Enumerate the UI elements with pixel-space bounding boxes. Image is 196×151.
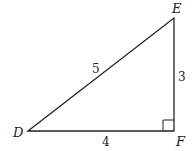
vertex-label-e: E <box>171 1 182 16</box>
side-label-ef: 3 <box>178 70 186 84</box>
vertex-label-f: F <box>175 134 186 149</box>
vertex-label-d: D <box>12 125 24 140</box>
right-angle-marker <box>163 120 174 131</box>
side-label-df: 4 <box>102 135 110 149</box>
triangle-def <box>28 18 174 131</box>
right-triangle-diagram: D E F 5 3 4 <box>0 0 196 151</box>
side-label-de: 5 <box>92 62 100 76</box>
